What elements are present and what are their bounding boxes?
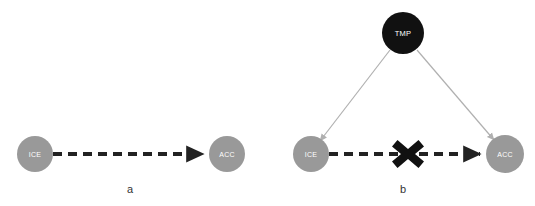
edge-tmp-to-acc-b bbox=[417, 50, 494, 140]
node-acc-a[interactable]: ACC bbox=[209, 136, 245, 172]
node-label-ice: ICE bbox=[29, 151, 42, 158]
node-label-acc: ACC bbox=[497, 151, 513, 158]
node-label-tmp: TMP bbox=[395, 29, 412, 38]
node-label-ice: ICE bbox=[305, 151, 318, 158]
node-label-acc: ACC bbox=[219, 151, 235, 158]
node-tmp-b[interactable]: TMP bbox=[382, 12, 424, 54]
diagram-canvas: ICE ACC a TMP bbox=[0, 0, 535, 206]
panel-caption-b: b bbox=[400, 183, 406, 195]
thin-arrow-line bbox=[320, 50, 390, 141]
panel-caption-a: a bbox=[127, 183, 134, 195]
diagram-svg: ICE ACC a TMP bbox=[0, 0, 535, 206]
node-ice-a[interactable]: ICE bbox=[17, 136, 53, 172]
panel-b: TMP ICE ACC b bbox=[293, 12, 524, 195]
thin-arrow-line bbox=[417, 50, 494, 140]
node-ice-b[interactable]: ICE bbox=[293, 136, 329, 172]
panel-a: ICE ACC a bbox=[17, 136, 245, 195]
edge-tmp-to-ice-b bbox=[320, 50, 390, 141]
node-acc-b[interactable]: ACC bbox=[486, 135, 524, 173]
